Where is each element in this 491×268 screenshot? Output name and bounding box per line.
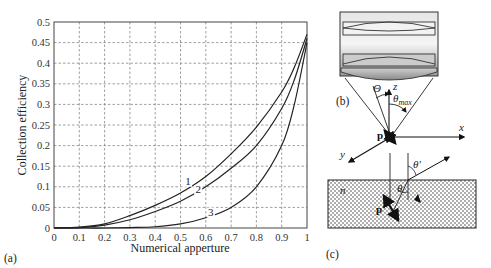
z-axis-label: z (392, 80, 398, 92)
y-tick-label: 0.05 (32, 202, 50, 213)
y-axis-label-diagram: y (339, 148, 345, 160)
panel-label-c: (c) (326, 248, 339, 261)
y-tick-label: 0.45 (32, 37, 50, 48)
y-tick-label: 0.4 (37, 58, 51, 69)
lens-element-bottom (341, 68, 437, 80)
collection-cone-right (391, 78, 433, 137)
diagram-panel-c: θ' θ n p' (c) (326, 153, 476, 261)
y-tick-label: 0 (45, 223, 50, 234)
x-tick-label: 0 (51, 232, 56, 243)
curve-label: 2 (195, 183, 201, 195)
y-tick-label: 0.1 (37, 181, 50, 192)
refractive-index-label: n (340, 184, 346, 196)
x-axis-label: Numerical apperture (131, 241, 230, 255)
p-prime-label: p' (376, 203, 385, 215)
chart-panel-a: 00.050.10.150.20.250.30.350.40.450.5 00.… (4, 17, 310, 266)
theta-inner-label: θ (397, 182, 403, 194)
theta-prime-label: θ' (413, 158, 421, 170)
theta-label: Θ (373, 82, 381, 94)
x-tick-label: 0.8 (250, 232, 263, 243)
x-axis-label-diagram: x (458, 121, 464, 133)
panel-label-b: (b) (336, 95, 350, 108)
curve-label: 3 (208, 206, 214, 218)
diagram-panel-b: Θ z θmax x y p (b) (336, 12, 464, 162)
y-tick-label: 0.35 (32, 78, 50, 89)
x-tick-label: 0.2 (98, 232, 111, 243)
lens-element-top (343, 22, 435, 35)
curve-label: 1 (185, 175, 191, 187)
y-axis-label: Collection efficiency (15, 75, 29, 176)
p-label: p (377, 129, 383, 141)
collection-cone-left (345, 78, 391, 137)
y-tick-label: 0.25 (32, 120, 50, 131)
y-tick-label: 0.15 (32, 161, 50, 172)
x-tick-label: 1 (304, 232, 309, 243)
theta-arc (376, 94, 389, 98)
y-tick-label: 0.5 (37, 17, 50, 28)
y-axis-arrow (349, 137, 391, 162)
figure-canvas: 00.050.10.150.20.250.30.350.40.450.5 00.… (0, 0, 491, 268)
y-tick-label: 0.2 (37, 140, 50, 151)
y-tick-labels: 00.050.10.150.20.250.30.350.40.450.5 (32, 17, 51, 234)
x-tick-label: 0.1 (73, 232, 86, 243)
panel-label-a: (a) (4, 252, 17, 265)
y-tick-label: 0.3 (37, 99, 50, 110)
x-tick-label: 0.9 (275, 232, 288, 243)
chart-grid (54, 22, 307, 228)
